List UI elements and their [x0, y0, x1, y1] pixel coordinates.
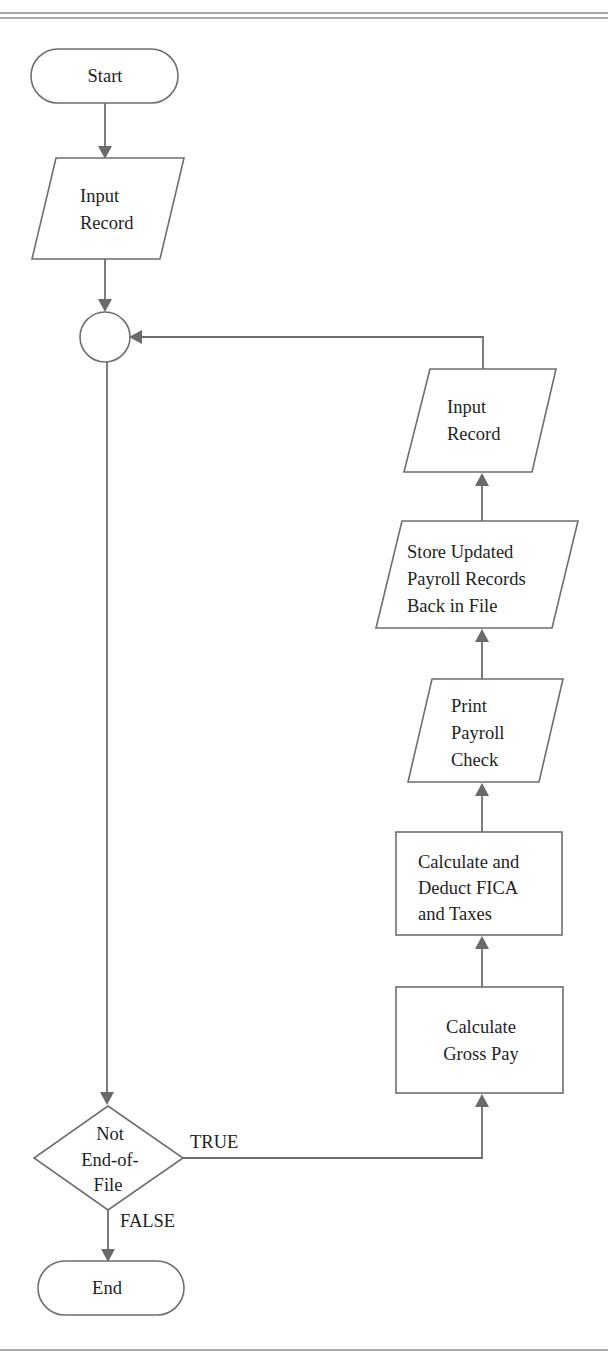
node-input-record-1: Input Record [32, 158, 184, 259]
node-input2-line2: Record [447, 424, 501, 444]
node-decision-line1: Not [96, 1124, 125, 1144]
node-input1-line2: Record [80, 213, 134, 233]
node-decision-line3: File [94, 1175, 123, 1195]
node-input-record-2: Input Record [404, 369, 556, 472]
node-fica-line2: Deduct FICA [418, 878, 519, 898]
node-gross-line1: Calculate [446, 1017, 516, 1037]
node-connector [80, 312, 130, 362]
node-print-line3: Check [451, 750, 499, 770]
node-print-line2: Payroll [451, 723, 504, 743]
node-print-line1: Print [451, 696, 488, 716]
arrowhead-down [101, 1249, 115, 1262]
arrowhead-left [129, 330, 142, 344]
edge-label-false: FALSE [120, 1211, 175, 1231]
node-input1-line1: Input [80, 186, 120, 206]
arrowhead-down [98, 299, 112, 312]
node-fica-line1: Calculate and [418, 852, 520, 872]
arrowhead-up [475, 629, 489, 642]
edge-label-true: TRUE [190, 1132, 238, 1152]
node-input2-line1: Input [447, 397, 487, 417]
node-calculate-fica: Calculate and Deduct FICA and Taxes [396, 832, 562, 935]
arrowhead-up [475, 783, 489, 796]
arrowhead-down [98, 146, 112, 159]
node-start: Start [31, 49, 178, 103]
node-decision-line2: End-of- [81, 1150, 139, 1170]
node-store-line1: Store Updated [407, 542, 514, 562]
node-store-line3: Back in File [407, 596, 497, 616]
node-decision: Not End-of- File [34, 1106, 183, 1210]
arrowhead-up [475, 1094, 489, 1107]
arrowhead-up [475, 936, 489, 949]
edge-input2-connector [138, 337, 483, 369]
node-gross-line2: Gross Pay [443, 1044, 519, 1064]
node-store-line2: Payroll Records [407, 569, 526, 589]
node-calculate-gross-pay: Calculate Gross Pay [396, 987, 563, 1093]
node-print-payroll-check: Print Payroll Check [408, 679, 563, 782]
node-store-updated-records: Store Updated Payroll Records Back in Fi… [376, 521, 578, 628]
arrowhead-up [475, 473, 489, 486]
node-fica-line3: and Taxes [418, 904, 492, 924]
node-end-label: End [92, 1278, 123, 1298]
node-start-label: Start [88, 66, 124, 86]
flowchart: Start Input Record Not End-of- File TRUE… [0, 0, 608, 1362]
arrowhead-down [100, 1092, 114, 1105]
node-end: End [38, 1261, 184, 1315]
